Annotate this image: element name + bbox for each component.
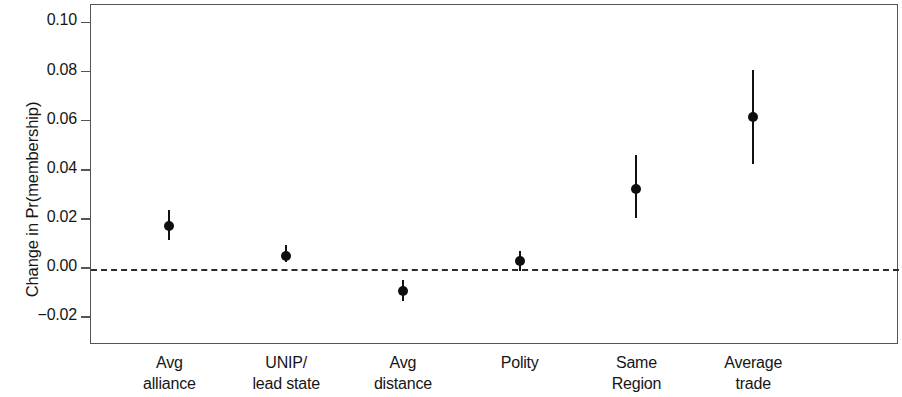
x-axis-category-label: Averagetrade <box>673 352 833 394</box>
y-axis-tick-mark <box>81 267 90 269</box>
y-axis-tick-mark <box>81 218 90 220</box>
x-axis-category-label-line2: trade <box>673 373 833 394</box>
x-axis-category-label-line2: distance <box>323 373 483 394</box>
y-axis-tick-label: 0.04 <box>47 159 77 177</box>
y-axis-tick-label: −0.02 <box>38 306 78 324</box>
estimate-marker <box>281 251 291 261</box>
y-axis-tick-label: 0.06 <box>47 110 77 128</box>
y-axis-tick-mark <box>81 22 90 24</box>
y-axis-tick-mark <box>81 316 90 318</box>
zero-reference-line <box>91 269 899 271</box>
confidence-interval-plot: Change in Pr(membership) 0.100.080.060.0… <box>0 0 902 397</box>
y-axis-tick-label: 0.10 <box>47 11 77 29</box>
y-axis-tick-mark <box>81 169 90 171</box>
y-axis-title: Change in Pr(membership) <box>23 50 42 350</box>
x-axis-category-label-line1: Avg <box>390 354 417 371</box>
x-axis-category-label-line1: Average <box>724 354 782 371</box>
x-axis-category-label-line1: Same <box>616 354 657 371</box>
y-axis-tick-mark <box>81 71 90 73</box>
estimate-marker <box>515 256 525 266</box>
plot-area <box>90 4 898 344</box>
x-axis-category-label-line1: Polity <box>501 354 539 371</box>
y-axis-tick-label: 0.08 <box>47 61 77 79</box>
y-axis-tick-mark <box>81 120 90 122</box>
x-axis-category-label-line1: UNIP/ <box>265 354 307 371</box>
x-axis-category-label-line1: Avg <box>156 354 183 371</box>
y-axis-tick-label: 0.02 <box>47 208 77 226</box>
y-axis-tick-label: 0.00 <box>47 257 77 275</box>
